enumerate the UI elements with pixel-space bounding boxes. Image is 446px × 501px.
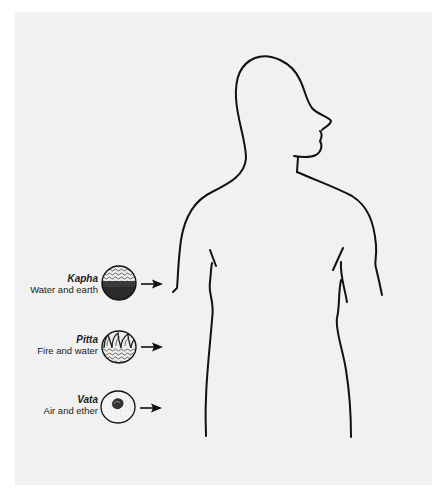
kapha-name: Kapha bbox=[8, 273, 98, 284]
face-outline bbox=[294, 80, 331, 157]
pitta-label: Pitta Fire and water bbox=[8, 334, 98, 356]
pitta-name: Pitta bbox=[8, 334, 98, 345]
vata-label: Vata Air and ether bbox=[8, 394, 98, 416]
pitta-fire-water-icon bbox=[100, 330, 140, 366]
head-back-left-shoulder-outline bbox=[173, 56, 300, 292]
vata-elements: Air and ether bbox=[8, 405, 98, 416]
kapha-arrow-icon bbox=[141, 280, 163, 289]
left-torso-outline bbox=[206, 250, 216, 436]
kapha-elements: Water and earth bbox=[8, 284, 98, 295]
vata-arrow-icon bbox=[140, 404, 162, 413]
right-shoulder-arm-outline bbox=[297, 172, 382, 295]
pitta-arrow-icon bbox=[141, 343, 163, 352]
kapha-label: Kapha Water and earth bbox=[8, 273, 98, 295]
body-outline-figure bbox=[0, 0, 446, 501]
vata-air-ether-icon bbox=[100, 390, 140, 424]
neck-front-outline bbox=[297, 157, 298, 172]
vata-name: Vata bbox=[8, 394, 98, 405]
kapha-water-earth-icon bbox=[100, 264, 140, 304]
pitta-elements: Fire and water bbox=[8, 345, 98, 356]
right-torso-outline bbox=[333, 248, 351, 437]
